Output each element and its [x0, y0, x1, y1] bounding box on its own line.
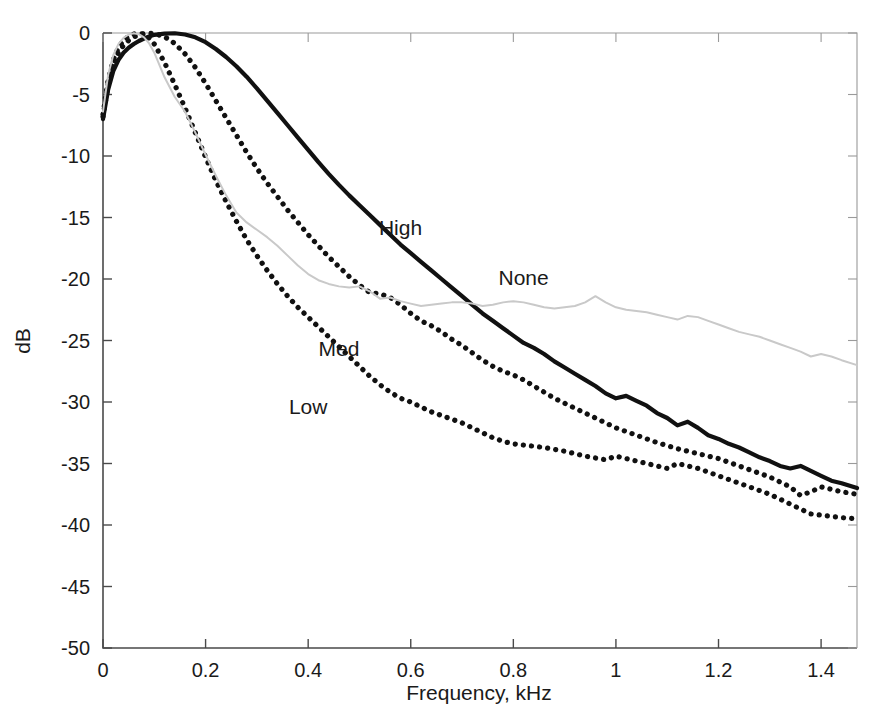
x-tick-label: 1	[610, 659, 621, 681]
series-label-none: None	[498, 266, 548, 289]
x-tick-label: 0.6	[397, 659, 425, 681]
chart-figure: 00.20.40.60.811.21.4 0-5-10-15-20-25-30-…	[0, 0, 896, 726]
x-tick-label: 1.2	[705, 659, 733, 681]
y-tick-label: -10	[61, 145, 90, 167]
x-axis-title: Frequency, kHz	[406, 681, 552, 704]
chart-background	[0, 0, 896, 726]
y-tick-label: -25	[61, 330, 90, 352]
y-tick-label: -30	[61, 391, 90, 413]
y-tick-label: -5	[72, 84, 90, 106]
chart-svg: 00.20.40.60.811.21.4 0-5-10-15-20-25-30-…	[0, 0, 896, 726]
y-tick-label: -40	[61, 514, 90, 536]
y-tick-label: -20	[61, 268, 90, 290]
y-axis-title: dB	[11, 328, 34, 354]
y-tick-label: -45	[61, 576, 90, 598]
x-tick-label: 0.8	[499, 659, 527, 681]
y-tick-label: -50	[61, 637, 90, 659]
y-tick-label: 0	[79, 22, 90, 44]
x-tick-label: 0	[97, 659, 108, 681]
series-label-high: High	[379, 216, 422, 239]
y-tick-label: -15	[61, 207, 90, 229]
series-label-low: Low	[289, 395, 328, 418]
x-tick-label: 0.2	[192, 659, 220, 681]
x-tick-label: 0.4	[294, 659, 322, 681]
y-tick-label: -35	[61, 453, 90, 475]
series-label-med: Med	[319, 337, 360, 360]
x-tick-label: 1.4	[807, 659, 835, 681]
